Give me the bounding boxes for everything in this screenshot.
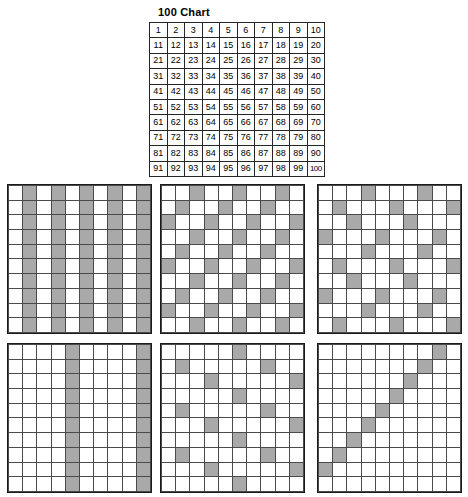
grid-cell-shaded [136,462,150,477]
grid-cell-empty [389,374,403,389]
grid-cell-shaded [51,274,65,289]
grid-cell-empty [289,389,303,404]
grid-cell-shaded [289,374,303,389]
grid-cell-empty [375,359,389,374]
grid-cell-empty [289,200,303,215]
grid-cell-shaded [361,186,375,201]
grid-cell-empty [432,318,446,333]
hundred-chart-row: 11121314151617181920 [150,38,325,53]
grid-cell-empty [176,477,190,492]
grid-row [319,389,461,404]
grid-cell-empty [122,186,136,201]
grid-cell-empty [289,230,303,245]
grid-cell-shaded [176,200,190,215]
grid-cell-empty [432,200,446,215]
grid-cell-empty [190,462,204,477]
grid-cell-empty [289,403,303,418]
hundred-chart-cell: 33 [185,69,203,84]
grid-cell-empty [319,318,333,333]
grid-cell-empty [37,462,51,477]
grid-cell-shaded [275,318,289,333]
grid-row [319,288,461,303]
grid-row [9,200,151,215]
grid-cell-empty [79,359,93,374]
grid-cell-empty [65,200,79,215]
grid-cell-empty [232,462,246,477]
grid-cell-empty [9,200,23,215]
grid-multiples-of-6 [160,343,305,493]
grid-cell-empty [404,244,418,259]
grid-cell-empty [389,477,403,492]
grid-cell-empty [289,345,303,360]
hundred-chart-cell: 20 [307,38,325,53]
hundred-chart-cell: 88 [272,146,290,161]
grid-cell-empty [261,318,275,333]
grid-cell-empty [94,288,108,303]
grid-cell-empty [176,259,190,274]
grid-cell-empty [204,477,218,492]
grid-row [319,403,461,418]
grid-cell-empty [37,318,51,333]
grid-cell-shaded [347,215,361,230]
hundred-chart-cell: 3 [185,23,203,38]
grid-cell-empty [204,274,218,289]
grid-cell-empty [108,345,122,360]
grid-cell-shaded [319,462,333,477]
grid-cell-empty [418,345,432,360]
hundred-chart-cell: 27 [255,53,273,68]
grid-cell-empty [347,462,361,477]
grid-cell-shaded [108,230,122,245]
grid-cell-empty [432,462,446,477]
grid-row [162,477,304,492]
grid-cell-empty [122,200,136,215]
grid-cell-empty [9,403,23,418]
grid-cell-empty [94,244,108,259]
grid-cell-empty [108,433,122,448]
grid-cell-empty [37,274,51,289]
grid-cell-shaded [204,259,218,274]
hundred-chart-cell: 18 [272,38,290,53]
grid-row [162,345,304,360]
grid-row [162,447,304,462]
grid-cell-empty [122,288,136,303]
grid-cell-empty [275,447,289,462]
grid-multiples-of-5 [7,343,152,493]
grid-cell-empty [51,433,65,448]
grid-cell-empty [37,374,51,389]
grid-cell-empty [162,345,176,360]
grid-cell-empty [389,403,403,418]
hundred-chart-row: 21222324252627282930 [150,53,325,68]
grid-cell-empty [333,303,347,318]
grid-cell-empty [347,200,361,215]
grid-cell-empty [65,215,79,230]
grid-cell-empty [37,389,51,404]
grid-row [162,230,304,245]
grid-cell-empty [432,259,446,274]
grid-cell-empty [9,477,23,492]
grid-table [8,344,151,492]
grid-cell-empty [319,345,333,360]
grid-row [9,389,151,404]
grid-cell-empty [190,477,204,492]
grid-cell-empty [319,403,333,418]
grid-row [162,418,304,433]
grid-cell-shaded [136,288,150,303]
grid-row [9,288,151,303]
grid-cell-shaded [204,462,218,477]
grid-cell-empty [333,274,347,289]
hundred-chart-cell: 41 [150,84,168,99]
grid-cell-empty [176,318,190,333]
grid-cell-empty [275,389,289,404]
grid-cell-shaded [333,259,347,274]
hundred-chart-cell: 44 [202,84,220,99]
grid-cell-empty [404,462,418,477]
hundred-chart-cell: 47 [255,84,273,99]
grid-cell-empty [23,418,37,433]
grid-row [319,359,461,374]
grid-cell-empty [289,274,303,289]
grid-cell-shaded [51,215,65,230]
grid-cell-empty [432,303,446,318]
grid-cell-shaded [319,230,333,245]
grid-cell-empty [23,374,37,389]
grid-cell-shaded [51,259,65,274]
